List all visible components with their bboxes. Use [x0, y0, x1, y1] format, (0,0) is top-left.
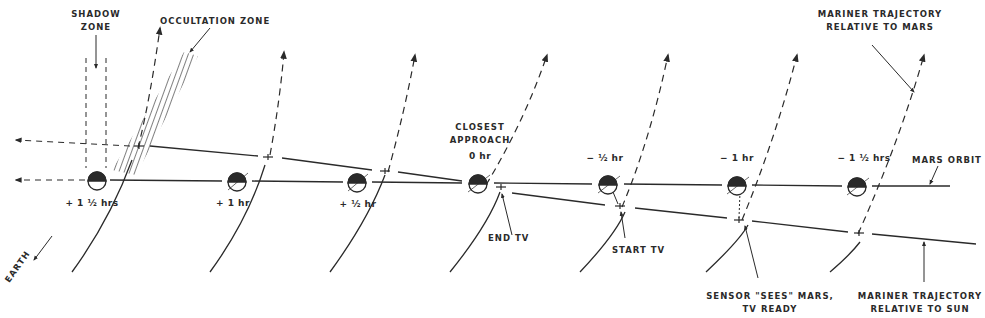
time-label-plus-1: + 1 hr: [208, 197, 258, 210]
time-label-minus-1-5: − 1 ½ hrs: [834, 152, 894, 165]
time-label-minus-1: − 1 hr: [712, 152, 762, 165]
mars-trajectory-curves: [72, 160, 860, 272]
earth-direction-arrow: [34, 236, 52, 260]
start-tv-sightline: [613, 192, 618, 204]
end-tv-label: END TV: [488, 232, 529, 245]
time-label-minus-0-5: − ½ hr: [580, 152, 630, 165]
occultation-zone-label: OCCULTATION ZONE: [160, 15, 270, 28]
sensor-pointer: [745, 226, 758, 278]
mars-minus-1-5hr: [847, 178, 869, 196]
time-label-plus-1-5: + 1 ½ hrs: [62, 197, 122, 210]
time-label-plus-0-5: + ½ hr: [333, 198, 383, 211]
mars-0hr: [468, 175, 490, 193]
sensor-sightline: [739, 192, 740, 218]
mariner-sun-label: MARINER TRAJECTORY RELATIVE TO SUN: [855, 290, 985, 316]
closest-approach-label: CLOSEST APPROACH 0 hr: [440, 121, 520, 163]
mars-plus-1hr: [228, 173, 248, 191]
occultation-pointer: [190, 28, 210, 52]
start-tv-label: START TV: [612, 244, 665, 257]
mars-trajectory-pointer: [872, 45, 914, 92]
mars-minus-1hr: [727, 177, 749, 195]
mars-plus-0-5hr: [348, 174, 368, 192]
mariner-mars-label: MARINER TRAJECTORY RELATIVE TO MARS: [800, 8, 960, 34]
mars-orbit-pointer: [930, 166, 938, 184]
sensor-sees-mars-label: SENSOR "SEES" MARS, TV READY: [705, 290, 835, 316]
end-tv-pointer: [502, 194, 512, 235]
mars-planets: [88, 172, 869, 196]
mars-orbit-label: MARS ORBIT: [912, 154, 982, 167]
shadow-zone-label: SHADOW ZONE: [70, 8, 122, 34]
shadow-zone: [86, 58, 106, 168]
occultation-zone: [112, 52, 198, 175]
mars-plus-1-5hr: [88, 172, 106, 190]
mars-minus-0-5hr: [598, 176, 620, 194]
